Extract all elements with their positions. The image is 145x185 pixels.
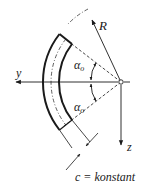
angle-lower-label: αo [74, 100, 84, 115]
reference-arc [68, 9, 88, 24]
angle-upper-label: αo [74, 58, 84, 73]
center-point [119, 80, 123, 84]
radius-label: R [98, 18, 107, 33]
thickness-label: c = konstant [75, 170, 136, 184]
thickness-dimension [60, 120, 99, 170]
curved-beam-diagram: R y z αo αo c = konstant [0, 0, 145, 185]
z-axis-label: z [126, 140, 132, 154]
y-axis-label: y [15, 66, 22, 80]
